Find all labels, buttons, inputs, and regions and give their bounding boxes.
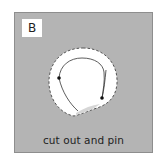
diagram-canvas: B cut out and pin (0, 0, 162, 164)
pin-dot-left-icon (57, 76, 61, 80)
pin-dot-right-icon (100, 96, 104, 100)
panel-caption: cut out and pin (14, 134, 153, 146)
